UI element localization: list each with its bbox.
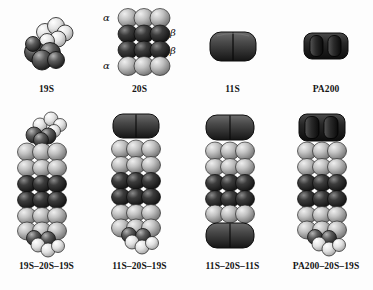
label-11s: 11S <box>225 84 240 94</box>
cap-top-11s <box>206 115 254 140</box>
cap-top-19s <box>26 112 67 148</box>
19s-20s-19s-structure-icon <box>10 109 84 259</box>
bottom-row: 19S–20S–19S <box>0 105 373 290</box>
label-19s-20s-19s: 19S–20S–19S <box>19 261 74 271</box>
label-19s: 19S <box>39 84 54 94</box>
proteasome-figure: 19S <box>0 0 373 290</box>
item-pa200: PA200 <box>279 0 373 105</box>
label-11s-20s-11s: 11S–20S–11S <box>206 261 260 271</box>
core-20s <box>17 143 66 240</box>
11s-20s-11s-art <box>201 113 265 253</box>
11s-20s-19s-art <box>105 111 175 257</box>
pa200-20s-19s-structure-icon <box>291 111 361 257</box>
cap-bottom-11s <box>206 223 254 248</box>
core-20s <box>111 140 160 237</box>
label-pa200: PA200 <box>313 84 340 94</box>
core-20s <box>205 142 254 223</box>
11s-structure-icon <box>207 28 259 66</box>
cap-top-pa200 <box>299 114 345 141</box>
core-20s <box>298 142 347 239</box>
11s-20s-11s-structure-icon <box>201 113 265 253</box>
pa200-20s-19s-art <box>291 111 361 257</box>
annotation-alpha-top: α <box>103 12 110 23</box>
cap-top-11s <box>113 114 159 138</box>
top-row: 19S <box>0 0 373 105</box>
11s-20s-19s-structure-icon <box>105 111 175 257</box>
label-11s-20s-19s: 11S–20S–19S <box>112 261 166 271</box>
19s-structure-icon <box>14 8 80 80</box>
annotation-beta-upper: β <box>170 27 176 38</box>
20s-art <box>117 6 171 80</box>
19s-art <box>14 8 80 80</box>
annotation-beta-lower: β <box>170 45 176 56</box>
annotation-alpha-bottom: α <box>103 60 110 71</box>
label-20s: 20S <box>132 84 147 94</box>
item-19s-20s-19s: 19S–20S–19S <box>0 105 93 290</box>
item-11s-20s-11s: 11S–20S–11S <box>186 105 279 290</box>
20s-structure-icon <box>117 6 171 80</box>
item-pa200-20s-19s: PA200–20S–19S <box>279 105 373 290</box>
pa200-art <box>301 29 351 63</box>
item-11s: 11S <box>186 0 279 105</box>
item-11s-20s-19s: 11S–20S–19S <box>93 105 186 290</box>
item-19s: 19S <box>0 0 93 105</box>
item-20s: α β β α 20S <box>93 0 186 105</box>
label-pa200-20s-19s: PA200–20S–19S <box>293 261 360 271</box>
pa200-structure-icon <box>301 29 351 63</box>
19s-20s-19s-art <box>10 109 84 259</box>
11s-art <box>207 28 259 66</box>
